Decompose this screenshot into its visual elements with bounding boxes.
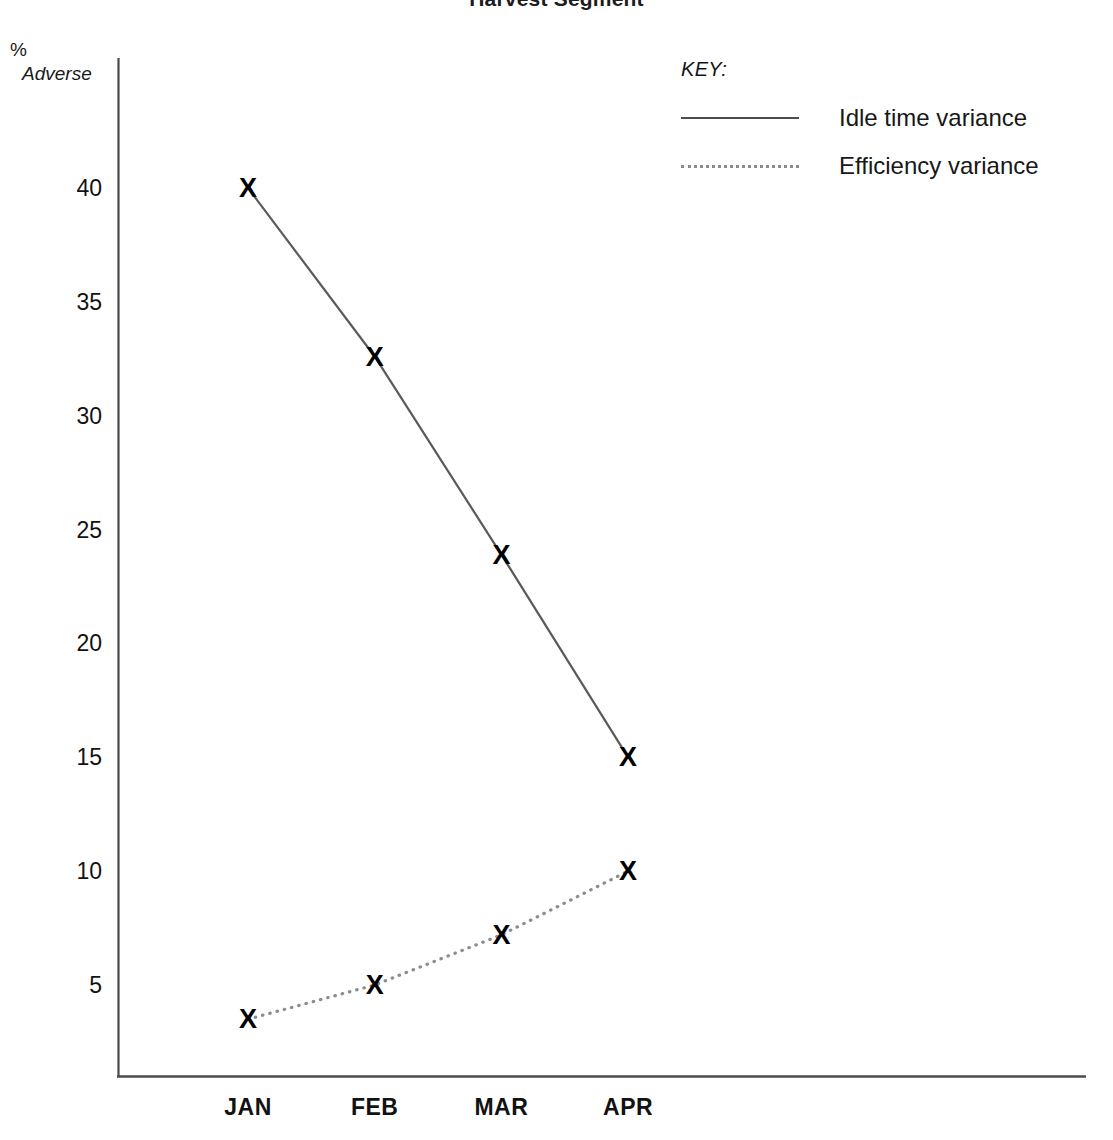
y-axis-tick-label: 15: [56, 744, 102, 771]
y-axis-tick-label: 5: [56, 972, 102, 999]
legend-item-idle-time-variance: Idle time variance: [681, 94, 1053, 142]
y-axis-tick-label: 30: [56, 402, 102, 429]
x-axis-tick-label-apr: APR: [568, 1094, 688, 1121]
series-line-efficiency-variance: [248, 871, 628, 1019]
legend: KEY: Idle time variance Efficiency varia…: [681, 58, 1053, 190]
y-axis-tick-label: 35: [56, 288, 102, 315]
y-axis-tick-label: 10: [56, 858, 102, 885]
y-axis-tick-label: 20: [56, 630, 102, 657]
x-axis-tick-label-feb: FEB: [315, 1094, 435, 1121]
legend-swatch-solid-line-icon: [681, 108, 799, 128]
legend-swatch-dotted-line-icon: [681, 156, 799, 176]
legend-label-idle-time-variance: Idle time variance: [799, 104, 1027, 132]
x-axis-tick-label-mar: MAR: [441, 1094, 561, 1121]
y-axis-tick-label: 25: [56, 516, 102, 543]
x-axis-tick-label-jan: JAN: [188, 1094, 308, 1121]
y-axis-tick-label: 40: [56, 175, 102, 202]
series-line-idle-time-variance: [248, 188, 628, 757]
legend-label-efficiency-variance: Efficiency variance: [799, 152, 1039, 180]
legend-title: KEY:: [681, 58, 1053, 81]
legend-item-efficiency-variance: Efficiency variance: [681, 142, 1053, 190]
chart-container: Harvest Segment % Adverse 51015202530354…: [0, 0, 1113, 1140]
